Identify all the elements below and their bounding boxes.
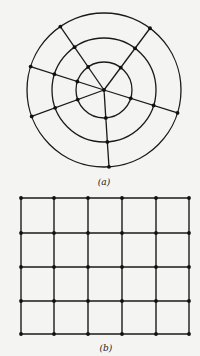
node (76, 98, 80, 102)
node (104, 116, 108, 120)
node (19, 265, 23, 269)
node (148, 26, 152, 30)
node (120, 265, 124, 269)
node (187, 196, 191, 200)
node (176, 111, 180, 115)
node (29, 65, 33, 69)
rectangular-grid-figure (19, 196, 191, 336)
node (52, 299, 56, 303)
node (53, 106, 57, 110)
spoke (31, 67, 104, 90)
spoke (104, 90, 178, 113)
node (154, 196, 158, 200)
center-node (102, 88, 106, 92)
node (86, 65, 90, 69)
node (187, 299, 191, 303)
node (107, 165, 111, 169)
node (120, 299, 124, 303)
node (133, 46, 137, 50)
node (52, 231, 56, 235)
node (19, 299, 23, 303)
node (19, 196, 23, 200)
node (19, 332, 23, 336)
node (187, 332, 191, 336)
node (120, 231, 124, 235)
figure-b-caption: (b) (100, 343, 113, 353)
node (152, 104, 156, 108)
node (154, 265, 158, 269)
figure-a-caption: (a) (98, 177, 110, 187)
spoke (60, 27, 104, 90)
spoke (104, 90, 109, 167)
polar-grid-figure (27, 13, 181, 169)
node (86, 265, 90, 269)
node (129, 96, 133, 100)
node (19, 231, 23, 235)
spoke (32, 90, 104, 116)
node (30, 115, 34, 119)
node (154, 332, 158, 336)
node (120, 332, 124, 336)
node (187, 231, 191, 235)
node (154, 299, 158, 303)
node (86, 299, 90, 303)
node (75, 80, 79, 84)
node (154, 231, 158, 235)
node (52, 265, 56, 269)
node (73, 45, 77, 49)
node (53, 72, 57, 76)
node (105, 140, 109, 144)
node (120, 196, 124, 200)
node (52, 196, 56, 200)
node (86, 196, 90, 200)
node (119, 66, 123, 70)
node (52, 332, 56, 336)
spoke (104, 28, 150, 90)
node (86, 332, 90, 336)
node (187, 265, 191, 269)
node (86, 231, 90, 235)
node (58, 25, 62, 29)
